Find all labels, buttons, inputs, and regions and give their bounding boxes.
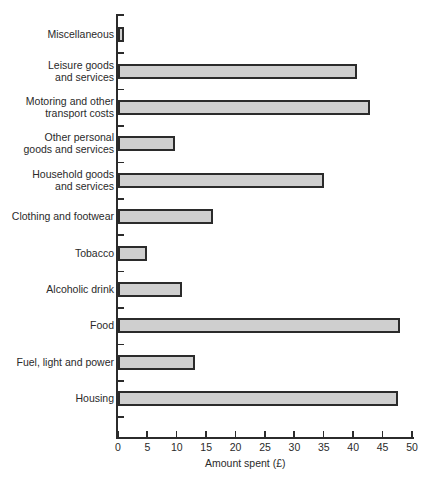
category-label-line: Food bbox=[90, 319, 114, 331]
bar bbox=[118, 173, 324, 188]
y-tick bbox=[116, 271, 124, 273]
category-label: Alcoholic drink bbox=[46, 283, 114, 295]
category-label-line: Tobacco bbox=[75, 247, 114, 259]
category-label-line: Leisure goods bbox=[48, 59, 114, 71]
category-label-line: transport costs bbox=[26, 107, 114, 119]
x-tick bbox=[323, 431, 325, 438]
category-label-line: and services bbox=[48, 71, 114, 83]
bar bbox=[118, 355, 195, 370]
y-tick bbox=[116, 52, 124, 54]
bar bbox=[118, 136, 175, 151]
x-tick bbox=[117, 431, 119, 438]
category-label-line: Fuel, light and power bbox=[17, 356, 114, 368]
x-tick-label: 15 bbox=[194, 441, 218, 453]
x-tick-label: 5 bbox=[135, 441, 159, 453]
y-tick bbox=[116, 89, 124, 91]
x-tick-label: 35 bbox=[312, 441, 336, 453]
category-label: Leisure goodsand services bbox=[48, 59, 114, 83]
bar bbox=[118, 318, 400, 333]
y-tick bbox=[116, 307, 124, 309]
x-tick bbox=[264, 431, 266, 438]
category-label: Clothing and footwear bbox=[12, 210, 114, 222]
bar bbox=[118, 100, 370, 115]
category-label-line: Other personal bbox=[24, 131, 114, 143]
bar bbox=[118, 282, 182, 297]
x-axis-label: Amount spent (£) bbox=[205, 457, 325, 469]
x-tick bbox=[293, 431, 295, 438]
y-tick bbox=[116, 380, 124, 382]
bar bbox=[118, 27, 124, 42]
x-tick-label: 30 bbox=[282, 441, 306, 453]
category-label-line: goods and services bbox=[24, 143, 114, 155]
category-label-line: Clothing and footwear bbox=[12, 210, 114, 222]
category-label: Miscellaneous bbox=[47, 28, 114, 40]
category-label-line: Household goods bbox=[32, 168, 114, 180]
category-label: Tobacco bbox=[75, 247, 114, 259]
x-tick-label: 50 bbox=[400, 441, 424, 453]
bar bbox=[118, 391, 398, 406]
x-tick bbox=[146, 431, 148, 438]
category-label: Housing bbox=[75, 392, 114, 404]
x-tick-label: 0 bbox=[106, 441, 130, 453]
category-label: Food bbox=[90, 319, 114, 331]
category-label-line: Alcoholic drink bbox=[46, 283, 114, 295]
x-tick-label: 25 bbox=[253, 441, 277, 453]
y-tick bbox=[116, 198, 124, 200]
category-label: Other personalgoods and services bbox=[24, 131, 114, 155]
category-label-line: Miscellaneous bbox=[47, 28, 114, 40]
y-tick bbox=[116, 234, 124, 236]
x-tick-label: 20 bbox=[224, 441, 248, 453]
category-label-line: Motoring and other bbox=[26, 95, 114, 107]
x-tick bbox=[235, 431, 237, 438]
horizontal-bar-chart: MiscellaneousLeisure goodsand servicesMo… bbox=[0, 0, 424, 478]
x-tick bbox=[352, 431, 354, 438]
category-label-line: Housing bbox=[75, 392, 114, 404]
x-tick bbox=[205, 431, 207, 438]
category-label: Motoring and othertransport costs bbox=[26, 95, 114, 119]
bar bbox=[118, 64, 357, 79]
y-tick bbox=[116, 14, 124, 16]
x-tick bbox=[382, 431, 384, 438]
x-tick bbox=[411, 431, 413, 438]
y-tick bbox=[116, 162, 124, 164]
y-tick bbox=[116, 344, 124, 346]
bar bbox=[118, 246, 147, 261]
x-tick bbox=[176, 431, 178, 438]
category-label-line: and services bbox=[32, 180, 114, 192]
y-tick bbox=[116, 416, 124, 418]
category-label: Fuel, light and power bbox=[17, 356, 114, 368]
x-tick-label: 10 bbox=[165, 441, 189, 453]
y-tick bbox=[116, 125, 124, 127]
x-tick-label: 45 bbox=[371, 441, 395, 453]
category-label: Household goodsand services bbox=[32, 168, 114, 192]
bar bbox=[118, 209, 213, 224]
x-tick-label: 40 bbox=[341, 441, 365, 453]
